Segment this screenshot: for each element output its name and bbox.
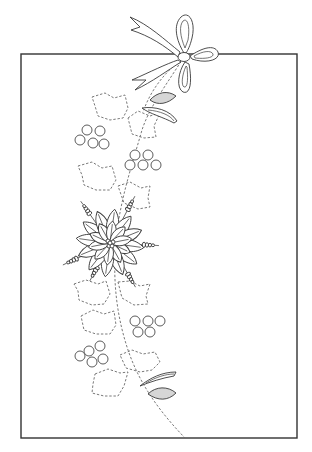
berry <box>84 346 94 356</box>
flower-center-bead <box>108 241 112 245</box>
bud-bottom <box>140 372 176 399</box>
berry <box>155 316 165 326</box>
berry <box>151 160 161 170</box>
berry <box>75 351 85 361</box>
berry <box>95 341 105 351</box>
bow-loop <box>179 62 191 92</box>
bud-top <box>142 93 177 123</box>
holly-leaf <box>81 310 116 334</box>
ribbon-tail <box>130 17 180 57</box>
berry <box>98 354 108 364</box>
holly-leaf <box>120 350 160 372</box>
berry <box>95 126 105 136</box>
berry <box>88 138 98 148</box>
berry <box>143 150 153 160</box>
berries-upper-left <box>75 125 109 149</box>
holly-leaf <box>78 162 116 190</box>
berry <box>82 125 92 135</box>
bow-knot <box>178 53 190 62</box>
berry <box>130 150 140 160</box>
holly-leaf <box>92 93 128 120</box>
berry <box>87 357 97 367</box>
berry <box>145 327 155 337</box>
berries-lower-right <box>130 316 165 337</box>
bow-loop <box>190 48 218 62</box>
berry <box>138 160 148 170</box>
holly-leaf <box>74 280 110 305</box>
berry <box>125 160 135 170</box>
berry <box>143 316 153 326</box>
poinsettia-flower <box>62 195 159 288</box>
berries-upper-right <box>125 150 161 170</box>
berries-lower-left <box>75 341 108 367</box>
ribbon-tail <box>132 60 181 90</box>
berry <box>99 139 109 149</box>
holly-leaf <box>92 369 128 396</box>
berry <box>75 135 85 145</box>
holly-leaf <box>118 182 150 209</box>
berry <box>133 327 143 337</box>
pattern-illustration <box>0 0 312 452</box>
berry <box>130 316 140 326</box>
